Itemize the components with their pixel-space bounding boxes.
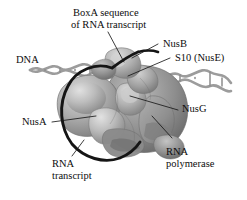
- figure-transcription-complex: BoxA sequence of RNA transcript NusB S10…: [0, 0, 247, 200]
- label-rna-transcript-line1: RNA: [52, 158, 74, 170]
- label-s10-nuse: S10 (NusE): [175, 52, 224, 64]
- label-rna-transcript-line2: transcript: [52, 170, 92, 182]
- label-rna-polymerase-line1: RNA: [166, 146, 188, 158]
- label-nusb: NusB: [163, 38, 187, 50]
- label-boxa-line2: of RNA transcript: [71, 19, 146, 31]
- label-dna: DNA: [16, 54, 39, 66]
- label-nusa: NusA: [22, 116, 47, 128]
- label-boxa-line1: BoxA sequence: [73, 7, 139, 19]
- label-nusg: NusG: [182, 103, 207, 115]
- label-rna-polymerase-line2: polymerase: [166, 158, 214, 170]
- protein-complex-body: [57, 48, 187, 159]
